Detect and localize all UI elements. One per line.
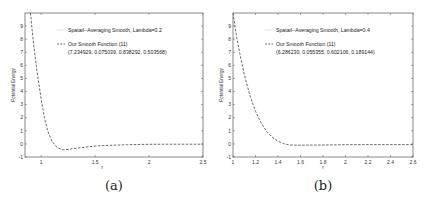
- y-tick-label: 1: [228, 128, 231, 134]
- axes-frame: [233, 13, 413, 157]
- y-tick-label: 5: [20, 75, 23, 81]
- legend-sublabel-parameters: (6.286230, 0.055355, 0.602106, 0.189144): [276, 49, 375, 55]
- x-tick-label: 2.2: [365, 159, 372, 165]
- y-tick-label: 1: [20, 128, 23, 134]
- legend-label-smooth-function: Our Smooth Function (11): [68, 41, 128, 47]
- x-tick-label: 1: [232, 159, 235, 165]
- y-tick-label: 2: [20, 114, 23, 120]
- x-tick-label: 1.5: [92, 159, 99, 165]
- x-tick-label: 2: [148, 159, 151, 165]
- legend-label-spatial-averaging: Spatail--Averaging Smooth, Lambda=0.4: [276, 27, 370, 33]
- y-tick-label: 6: [228, 62, 231, 68]
- y-axis-label: Potential Energy: [219, 67, 224, 101]
- x-tick-label: 2.5: [200, 159, 207, 165]
- y-tick-label: 9: [228, 23, 231, 29]
- y-tick-label: 8: [20, 36, 23, 42]
- series-line-smooth-function: [233, 13, 413, 145]
- y-tick-label: 3: [228, 101, 231, 107]
- x-tick-label: 1: [40, 159, 43, 165]
- x-tick-label: 1.4: [275, 159, 282, 165]
- legend-label-spatial-averaging: Spatail--Averaging Smooth, Lambda=0.2: [68, 27, 162, 33]
- y-axis-label: Potential Energy: [11, 67, 16, 101]
- caption-a: (a): [105, 178, 123, 193]
- x-tick-label: 1.2: [252, 159, 259, 165]
- panel-a: -1012345678911.522.5rPotential EnergySpa…: [11, 13, 207, 170]
- x-tick-label: 1.6: [297, 159, 304, 165]
- x-tick-label: 2: [344, 159, 347, 165]
- series-line-smooth-function: [30, 13, 203, 150]
- y-tick-label: -1: [19, 154, 24, 160]
- panel-b: -1012345678911.21.41.61.822.22.42.6rPote…: [219, 13, 417, 170]
- caption-b: (b): [314, 178, 332, 193]
- y-tick-label: -1: [227, 154, 232, 160]
- figure: -1012345678911.522.5rPotential EnergySpa…: [0, 0, 426, 201]
- y-tick-label: 4: [228, 88, 231, 94]
- y-tick-label: 6: [20, 62, 23, 68]
- y-tick-label: 0: [20, 141, 23, 147]
- x-tick-label: 2.6: [410, 159, 417, 165]
- y-tick-label: 5: [228, 75, 231, 81]
- legend-label-smooth-function: Our Smooth Function (11): [276, 41, 336, 47]
- y-tick-label: 3: [20, 101, 23, 107]
- x-tick-label: 2.4: [387, 159, 394, 165]
- y-tick-label: 0: [228, 141, 231, 147]
- y-tick-label: 4: [20, 88, 23, 94]
- y-tick-label: 8: [228, 36, 231, 42]
- y-tick-label: 7: [228, 49, 231, 55]
- y-tick-label: 7: [20, 49, 23, 55]
- x-axis-label: r: [101, 164, 103, 170]
- y-tick-label: 2: [228, 114, 231, 120]
- legend-sublabel-parameters: (7.234929, 0.075039, 0.838292, 0.503568): [68, 49, 167, 55]
- y-tick-label: 9: [20, 23, 23, 29]
- axes-frame: [25, 13, 203, 157]
